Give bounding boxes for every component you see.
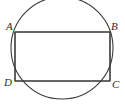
geometry-canvas — [0, 0, 125, 105]
circumscribed-circle — [11, 0, 113, 99]
vertex-label-c: C — [112, 79, 119, 90]
geometry-figure: A B C D — [0, 0, 125, 105]
vertex-label-b: B — [111, 21, 118, 32]
vertex-label-a: A — [6, 21, 13, 32]
inscribed-rectangle — [15, 32, 110, 81]
vertex-label-d: D — [4, 77, 12, 88]
